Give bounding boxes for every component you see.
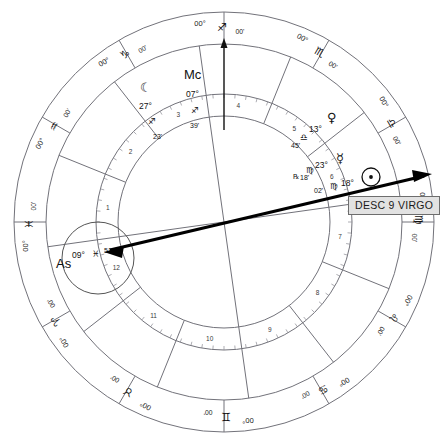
descendant-tooltip-label: DESC 9 VIRGO <box>355 199 433 211</box>
degree-tick <box>304 124 307 127</box>
zodiac-sign-glyph: ♓ <box>23 219 36 229</box>
degree-tick <box>100 189 104 190</box>
zodiac-sign-glyph: ♐ <box>217 21 227 34</box>
moon-glyph: ☾ <box>140 80 152 95</box>
zodiac-cusp-degree: 00° <box>242 416 253 425</box>
degree-tick <box>319 302 322 305</box>
zodiac-label-gemini: 00°♊00' <box>204 409 254 425</box>
degree-tick <box>133 310 136 313</box>
house-number-10: 10 <box>206 335 214 342</box>
degree-tick <box>170 334 172 338</box>
house-number-12: 12 <box>113 264 121 271</box>
degree-tick <box>346 244 350 245</box>
degree-tick <box>295 324 297 327</box>
house-band-divider-12 <box>123 287 140 301</box>
zodiac-cusp-minute: 00' <box>300 390 311 400</box>
degree-tick <box>104 178 108 179</box>
house-cusp-line-8 <box>343 270 389 289</box>
degree-tick <box>326 149 329 151</box>
mercury-degree-label: 23° <box>315 160 328 170</box>
zodiac-label-capricorn: 00°♑00' <box>97 36 148 75</box>
zodiac-label-taurus: 00°♉00' <box>105 374 156 413</box>
degree-tick <box>341 264 345 265</box>
degree-tick <box>98 200 102 201</box>
degree-tick <box>276 334 278 338</box>
degree-tick <box>142 124 145 127</box>
degree-tick <box>180 339 181 343</box>
moon-degree-label: 27° <box>139 101 152 111</box>
descendant-tooltip: DESC 9 VIRGO <box>348 196 440 215</box>
degree-tick <box>126 140 129 143</box>
zodiac-cusp-degree: 00° <box>21 240 30 251</box>
sun-minute-label: 02' <box>314 187 323 194</box>
zodiac-label-leo: 00°♌00' <box>376 290 415 341</box>
zodiac-label-cancer: 00°♋00' <box>300 369 351 408</box>
degree-tick <box>276 106 278 110</box>
zodiac-cusp-minute: 00' <box>137 44 148 54</box>
zodiac-cusp-degree: 00° <box>97 55 111 68</box>
degree-tick <box>319 140 322 143</box>
degree-tick <box>295 117 297 120</box>
mc-arrow-head <box>221 38 228 48</box>
zodiac-sign-glyph: ♍ <box>412 215 425 225</box>
house-cusp-line-2 <box>59 155 105 174</box>
house-number-2: 2 <box>129 148 133 155</box>
mercury-retrograde-glyph: ℞ <box>293 173 299 180</box>
mc-degree-label: 07° <box>186 89 199 99</box>
zodiac-label-aquarius: 00°♒00' <box>33 103 72 154</box>
house-number-5: 5 <box>293 125 297 132</box>
degree-tick <box>331 158 334 160</box>
degree-tick <box>108 168 112 170</box>
house-cusp-line-1 <box>48 240 98 247</box>
house-number-4: 4 <box>236 102 240 109</box>
zodiac-label-scorpio: 00°♏00' <box>292 31 343 70</box>
degree-tick <box>336 274 340 276</box>
zodiac-label-aries: 00°♈00' <box>38 298 77 349</box>
zodiac-cusp-minute: 00' <box>328 60 339 70</box>
degree-tick <box>286 329 288 332</box>
house-cusp-line-5 <box>272 57 291 103</box>
degree-tick <box>256 342 257 346</box>
zodiac-cusp-degree: 00° <box>377 95 390 109</box>
degree-tick <box>256 98 257 102</box>
house-band-divider-10 <box>239 327 242 349</box>
house-cusp-line-11 <box>157 341 176 387</box>
degree-tick <box>100 254 104 255</box>
zodiac-cusp-minute: 00' <box>392 135 402 146</box>
sun-degree-label: 18° <box>341 178 354 188</box>
house-number-1: 1 <box>106 204 110 211</box>
degree-tick <box>344 254 348 255</box>
house-band-divider-6 <box>308 143 325 157</box>
venus-glyph: ♀ <box>327 110 337 125</box>
degree-tick <box>104 264 108 265</box>
zodiac-cusp-degree: 00° <box>138 399 152 412</box>
house-band-divider-8 <box>322 262 342 270</box>
degree-tick <box>336 168 340 170</box>
house-number-3: 3 <box>176 111 180 118</box>
degree-tick <box>180 102 181 106</box>
zodiac-cusp-degree: 00° <box>401 293 414 307</box>
degree-tick <box>126 302 129 305</box>
venus-degree-label: 13° <box>309 124 322 134</box>
zodiac-cusp-minute: 00' <box>46 298 56 309</box>
house-band-divider-2 <box>105 174 125 182</box>
venus-sign-glyph: ♎ <box>300 132 308 142</box>
degree-tick <box>151 324 153 327</box>
zodiac-label-sagittarius: 00°♐00' <box>194 19 244 35</box>
zodiac-cusp-degree: 00° <box>194 19 205 28</box>
house-number-7: 7 <box>338 233 342 240</box>
planet-mercury: ☿ 23° ♍ ℞ 18' <box>293 151 344 181</box>
zodiac-sign-glyph: ♊ <box>221 410 231 423</box>
zodiac-cusp-degree: 00° <box>337 375 351 388</box>
degree-tick <box>202 344 203 348</box>
house-number-9: 9 <box>268 326 272 333</box>
planet-venus: ♀ 13° ♎ 45' <box>291 110 337 149</box>
degree-tick <box>246 96 247 100</box>
mc-abbr-label: Mc <box>184 67 202 82</box>
moon-sign-glyph: ♐ <box>148 116 156 126</box>
zodiac-cusp-minute: 00' <box>109 374 120 384</box>
house-number-8: 8 <box>316 289 320 296</box>
as-abbr-label: As <box>56 256 72 271</box>
zodiac-cusp-minute: 00' <box>236 28 245 35</box>
degree-tick <box>108 274 112 276</box>
